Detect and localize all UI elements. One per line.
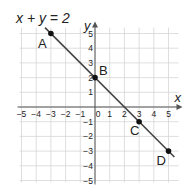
x-tick-label: 3 <box>137 109 142 119</box>
x-tick-label: 5 <box>166 109 171 119</box>
x-tick-label: 1 <box>107 109 112 119</box>
y-tick-label: −2 <box>83 131 93 141</box>
y-tick-label: −1 <box>83 117 93 127</box>
point-label-d: D <box>157 153 166 168</box>
point-label-a: A <box>38 36 47 51</box>
x-tick-label: −3 <box>46 109 56 119</box>
coordinate-plane: xy−5−4−3−2−1012345−5−4−3−2−112345ABCD <box>0 0 188 196</box>
x-tick-label: 0 <box>96 109 101 119</box>
y-tick-label: −4 <box>83 161 93 171</box>
y-tick-label: 5 <box>88 29 93 39</box>
x-tick-label: 4 <box>151 109 156 119</box>
y-tick-label: −5 <box>83 176 93 186</box>
x-tick-label: −2 <box>61 109 71 119</box>
y-tick-label: −3 <box>83 146 93 156</box>
x-axis-label: x <box>174 90 182 105</box>
y-tick-label: 1 <box>88 87 93 97</box>
y-tick-label: 3 <box>88 58 93 68</box>
y-axis-arrow-icon <box>92 22 98 28</box>
point-label-c: C <box>130 123 139 138</box>
y-tick-label: 4 <box>88 43 93 53</box>
x-tick-label: 2 <box>122 109 127 119</box>
point-b <box>92 75 98 81</box>
point-a <box>48 31 54 37</box>
x-tick-label: −5 <box>17 109 27 119</box>
point-d <box>166 148 172 154</box>
x-tick-label: −4 <box>31 109 41 119</box>
point-label-b: B <box>99 63 108 78</box>
